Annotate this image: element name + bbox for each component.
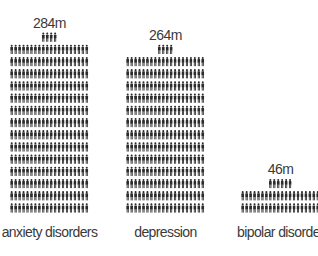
person-icon [22,191,25,200]
person-icon [273,191,276,200]
person-icon [126,94,129,103]
person-icon [50,130,53,139]
person-icon [126,57,129,66]
person-icon [162,155,165,164]
person-icon [14,203,17,212]
person-icon [30,130,33,139]
person-icon [186,118,189,127]
person-icon [130,203,133,212]
person-icon [146,155,149,164]
person-icon [74,191,77,200]
person-icon [22,179,25,188]
person-icon [312,191,315,200]
person-icon [85,81,88,90]
person-icon [66,203,69,212]
person-icon [197,81,200,90]
person-icon [26,106,29,115]
person-icon [197,167,200,176]
person-icon [70,81,73,90]
person-icon [66,45,69,54]
person-icon [18,106,21,115]
person-icon [182,69,185,78]
person-icon [193,191,196,200]
person-icon [38,130,41,139]
person-icon [46,203,49,212]
person-icon [77,203,80,212]
person-icon [186,142,189,151]
person-icon [197,106,200,115]
person-icon [182,167,185,176]
person-icon [50,33,53,42]
person-icon [77,69,80,78]
person-icon [142,130,145,139]
person-icon [186,179,189,188]
person-icon [174,167,177,176]
person-icon [18,203,21,212]
person-icon [154,167,157,176]
person-icon [50,45,53,54]
person-icon [34,57,37,66]
person-icon [66,155,69,164]
person-icon [190,167,193,176]
person-icon [154,57,157,66]
person-icon [178,118,181,127]
person-icon [158,130,161,139]
person-icon [130,57,133,66]
person-icon [70,203,73,212]
person-icon [166,106,169,115]
person-icon [30,94,33,103]
person-icon [14,45,17,54]
person-icon [182,106,185,115]
person-icon [66,106,69,115]
person-icon [154,106,157,115]
person-icon [10,57,13,66]
person-icon [146,118,149,127]
person-icon [30,191,33,200]
person-icon [162,203,165,212]
person-icon [201,191,204,200]
person-icon [38,191,41,200]
person-icon [58,191,61,200]
person-icon [193,203,196,212]
person-icon [285,179,288,188]
person-icon [22,118,25,127]
person-icon [178,179,181,188]
person-icon [18,94,21,103]
person-icon [166,203,169,212]
person-icon [186,155,189,164]
person-icon [146,106,149,115]
person-icon [130,155,133,164]
person-icon [190,155,193,164]
person-icon [166,155,169,164]
category-group-anxiety-disorders: 284manxiety disorders [2,15,98,240]
person-icon [245,191,248,200]
person-icon [50,191,53,200]
person-icon [81,142,84,151]
person-icon [74,118,77,127]
person-icon [81,155,84,164]
person-icon [14,130,17,139]
person-icon [150,118,153,127]
person-icon [66,118,69,127]
person-icon [154,155,157,164]
person-icon [66,167,69,176]
person-icon [166,167,169,176]
person-icon [190,191,193,200]
person-icon [166,94,169,103]
person-icon [54,179,57,188]
person-icon [130,81,133,90]
person-icon [14,179,17,188]
person-icon [150,57,153,66]
person-icon [285,191,288,200]
person-icon [85,130,88,139]
person-icon [308,191,311,200]
person-icon [30,203,33,212]
person-icon [70,179,73,188]
person-icon [18,191,21,200]
person-icon [18,69,21,78]
person-icon [138,94,141,103]
person-icon [166,57,169,66]
person-icon [170,118,173,127]
person-icon [154,118,157,127]
person-icon [10,45,13,54]
